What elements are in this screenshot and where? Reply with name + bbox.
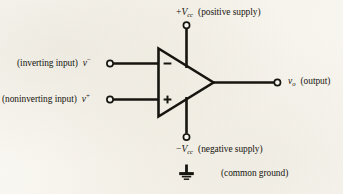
- positive-supply-label: +Vcc(positive supply): [176, 7, 261, 17]
- inverting-input-description: (inverting input): [17, 58, 78, 68]
- output-symbol-sub: o: [292, 80, 295, 87]
- noninverting-input-symbol-sign: +: [86, 92, 90, 99]
- positive-supply-symbol-sub: cc: [187, 11, 193, 18]
- negative-supply-symbol-sub: cc: [187, 148, 193, 155]
- negative-supply-label: −Vcc(negative supply): [176, 144, 263, 154]
- noninverting-input-description: (noninverting input): [2, 94, 77, 104]
- noninverting-input-terminal-node: [107, 96, 113, 102]
- negative-supply-description: (negative supply): [198, 144, 263, 154]
- output-description: (output): [301, 76, 331, 86]
- output-label: vo(output): [288, 76, 330, 86]
- common-ground-label: (common ground): [221, 169, 288, 178]
- output-terminal-node: [274, 79, 280, 85]
- inverting-input-symbol-sign: −: [87, 56, 91, 63]
- noninverting-input-label: (noninverting input)v+: [2, 94, 90, 104]
- positive-supply-terminal-node: [183, 22, 189, 28]
- inverting-input-label: (inverting input)v−: [17, 58, 91, 68]
- inverting-input-terminal-node: [107, 60, 113, 66]
- ground-icon: [179, 165, 194, 180]
- noninverting-polarity-plus-icon: [164, 96, 172, 104]
- opamp-diagram-canvas: (inverting input)v− (noninverting input)…: [0, 0, 343, 194]
- negative-supply-terminal-node: [183, 134, 189, 140]
- positive-supply-description: (positive supply): [198, 7, 260, 17]
